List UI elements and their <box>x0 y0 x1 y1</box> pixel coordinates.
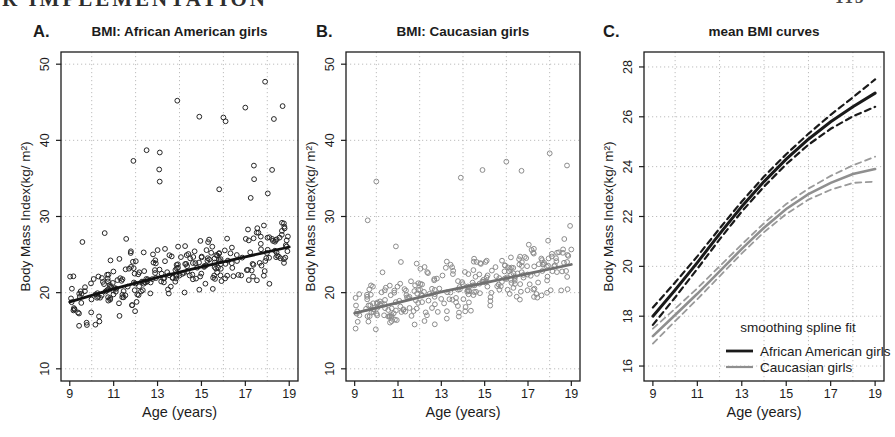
svg-text:Age (years): Age (years) <box>142 404 217 420</box>
panel-c: smoothing spline fitAfrican American gir… <box>601 22 891 420</box>
svg-text:11: 11 <box>107 387 120 401</box>
svg-text:11: 11 <box>691 387 704 401</box>
svg-text:A.: A. <box>33 22 50 40</box>
svg-text:Caucasian girls: Caucasian girls <box>760 360 853 375</box>
svg-text:24: 24 <box>621 160 635 174</box>
svg-text:15: 15 <box>478 387 492 401</box>
svg-text:22: 22 <box>621 210 635 224</box>
svg-text:African American girls: African American girls <box>760 344 891 359</box>
svg-text:13: 13 <box>434 387 448 401</box>
svg-text:15: 15 <box>194 387 208 401</box>
svg-text:20: 20 <box>621 259 635 273</box>
svg-text:16: 16 <box>621 359 635 373</box>
svg-text:Age (years): Age (years) <box>727 404 802 420</box>
svg-text:11: 11 <box>392 387 405 401</box>
svg-text:18: 18 <box>621 309 635 323</box>
svg-text:40: 40 <box>38 133 52 147</box>
svg-text:19: 19 <box>282 387 296 401</box>
svg-text:BMI: Caucasian girls: BMI: Caucasian girls <box>397 24 530 39</box>
svg-text:9: 9 <box>351 387 358 401</box>
svg-text:13: 13 <box>151 387 165 401</box>
svg-text:B.: B. <box>316 22 333 40</box>
svg-text:17: 17 <box>238 387 252 401</box>
svg-text:20: 20 <box>38 286 52 300</box>
svg-text:17: 17 <box>521 387 535 401</box>
svg-text:50: 50 <box>323 57 337 71</box>
bmi-figure-canvas: 911131517191020304050BMI: African Americ… <box>0 0 895 437</box>
svg-text:30: 30 <box>323 210 337 224</box>
panel-b: 911131517191020304050BMI: Caucasian girl… <box>303 22 580 420</box>
svg-text:Age (years): Age (years) <box>426 404 501 420</box>
svg-text:10: 10 <box>323 362 337 376</box>
legend: smoothing spline fitAfrican American gir… <box>726 320 891 375</box>
svg-text:26: 26 <box>621 110 635 124</box>
svg-text:40: 40 <box>323 133 337 147</box>
svg-text:9: 9 <box>66 387 73 401</box>
svg-text:28: 28 <box>621 60 635 74</box>
svg-text:BMI: African American girls: BMI: African American girls <box>91 24 267 39</box>
svg-text:30: 30 <box>38 210 52 224</box>
svg-text:20: 20 <box>323 286 337 300</box>
svg-text:13: 13 <box>735 387 749 401</box>
plot-area <box>653 79 875 343</box>
svg-text:17: 17 <box>824 387 838 401</box>
svg-text:10: 10 <box>38 362 52 376</box>
svg-text:mean BMI curves: mean BMI curves <box>708 24 819 39</box>
svg-text:9: 9 <box>649 387 656 401</box>
svg-text:Body Mass Index(kg/ m²): Body Mass Index(kg/ m²) <box>601 141 616 291</box>
book-page: R IMPLEMENTATION 113 9111315171910203040… <box>0 0 895 437</box>
svg-text:15: 15 <box>779 387 793 401</box>
svg-text:C.: C. <box>603 22 620 40</box>
svg-text:smoothing spline fit: smoothing spline fit <box>740 320 856 335</box>
svg-text:Body Mass Index(kg/ m²): Body Mass Index(kg/ m²) <box>303 141 318 291</box>
svg-text:19: 19 <box>868 387 882 401</box>
svg-text:19: 19 <box>564 387 578 401</box>
panel-a: 911131517191020304050BMI: African Americ… <box>18 22 298 420</box>
svg-text:Body Mass Index(kg/ m²): Body Mass Index(kg/ m²) <box>18 141 33 291</box>
svg-text:50: 50 <box>38 57 52 71</box>
